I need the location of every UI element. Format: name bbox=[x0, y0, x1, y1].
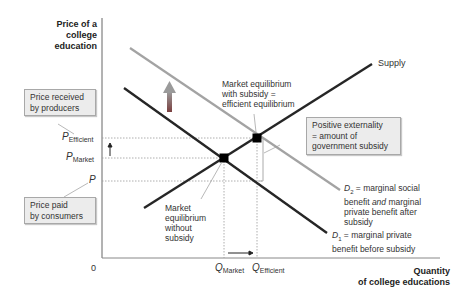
demand-shift-arrow-icon bbox=[163, 81, 176, 112]
origin-label: 0 bbox=[91, 263, 96, 273]
p-paid-label: P bbox=[89, 174, 96, 185]
externality-callout: Positive externality = amount of governm… bbox=[306, 117, 401, 155]
quantity-right-arrow-icon bbox=[228, 251, 253, 255]
y-axis-label: Price of a college education bbox=[36, 19, 97, 52]
q-market-label: QMarket bbox=[215, 262, 244, 274]
efficient-equilibrium-point bbox=[253, 134, 262, 143]
efficient-equilibrium-annotation: Market equilibrium with subsidy = effici… bbox=[222, 79, 295, 109]
x-axis-label: Quantity of college educations bbox=[330, 266, 450, 288]
p-market-label: PMarket bbox=[66, 151, 94, 163]
d2-label: D2 = marginal social benefit and margina… bbox=[344, 183, 421, 227]
price-up-arrow-icon bbox=[108, 143, 112, 156]
supply-label: Supply bbox=[378, 58, 406, 68]
market-equilibrium-point bbox=[220, 154, 229, 163]
price-paid-callout: Price paid by consumers bbox=[24, 197, 96, 224]
market-equilibrium-annotation: Market equilibrium without subsidy bbox=[165, 203, 206, 243]
subsidy-bracket bbox=[259, 138, 263, 181]
price-received-callout: Price received by producers bbox=[24, 89, 96, 116]
q-efficient-label: QEfficient bbox=[252, 262, 285, 274]
p-efficient-label: PEfficient bbox=[62, 131, 93, 143]
d1-label: D1 = marginal private benefit before sub… bbox=[332, 230, 415, 254]
